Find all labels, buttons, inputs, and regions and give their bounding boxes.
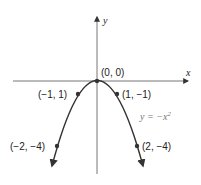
label-origin: (0, 0) [101,67,124,78]
equation-label: y = −x2 [139,110,171,122]
label-neg2: (−2, −4) [10,141,45,152]
label-pos1: (1, −1) [122,89,151,100]
parabola-graph: x y (0, 0) (−1, 1) (1, −1) (−2, −4) (2, … [0,0,201,185]
label-neg1: (−1, 1) [38,89,67,100]
point-neg2 [55,144,59,148]
point-neg1 [76,92,80,96]
point-pos2 [135,144,139,148]
point-pos1 [115,92,119,96]
label-pos2: (2, −4) [142,141,171,152]
y-axis-label: y [102,15,108,26]
x-axis-label: x [185,67,191,78]
point-origin [95,79,99,83]
